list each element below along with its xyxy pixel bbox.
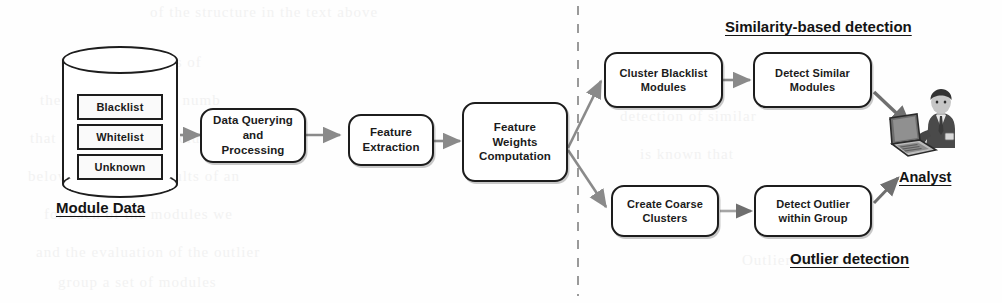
similarity-branch-caption: Similarity-based detection: [725, 18, 912, 35]
data-slot-unknown[interactable]: Unknown: [77, 154, 163, 180]
box-line: Create Coarse: [623, 197, 707, 211]
box-line: Feature: [475, 120, 555, 135]
box-line: Detect Similar: [771, 66, 854, 80]
arrow-feature-weights-to-cluster-blacklist: [568, 81, 601, 148]
process-box-detect-outlier-within-group[interactable]: Detect Outlier within Group: [754, 185, 872, 237]
box-line: and Processing: [206, 128, 300, 158]
box-line: Modules: [616, 80, 712, 94]
diagram-canvas: of the structure in the text abovete in …: [0, 0, 1002, 303]
box-line: Weights: [475, 135, 555, 150]
box-line: Feature: [358, 125, 423, 140]
process-box-create-coarse-clusters[interactable]: Create Coarse Clusters: [611, 185, 719, 237]
box-line: Cluster Blacklist: [616, 66, 712, 80]
box-line: Data Querying: [206, 113, 300, 128]
outlier-branch-caption: Outlier detection: [790, 250, 909, 267]
box-line: Extraction: [358, 140, 423, 155]
data-slot-whitelist[interactable]: Whitelist: [77, 124, 163, 150]
module-data-store: Blacklist Whitelist Unknown: [62, 46, 178, 198]
data-slot-label: Unknown: [95, 161, 146, 173]
cylinder-top-ellipse: [62, 46, 178, 74]
process-box-cluster-blacklist-modules[interactable]: Cluster Blacklist Modules: [604, 52, 723, 108]
process-box-feature-extraction[interactable]: Feature Extraction: [348, 114, 434, 166]
process-box-data-querying[interactable]: Data Querying and Processing: [200, 108, 306, 163]
arrow-feature-weights-to-create-coarse-clusters: [568, 150, 606, 207]
module-data-caption: Module Data: [56, 199, 145, 216]
data-slot-label: Blacklist: [96, 101, 143, 113]
box-line: Modules: [771, 80, 854, 94]
arrow-detect-outlier-to-analyst: [874, 178, 898, 203]
analyst-label: Analyst: [899, 169, 951, 185]
process-box-feature-weights-computation[interactable]: Feature Weights Computation: [462, 102, 568, 182]
data-slot-label: Whitelist: [96, 131, 144, 143]
box-line: Clusters: [623, 211, 707, 225]
box-line: Computation: [475, 149, 555, 164]
process-box-detect-similar-modules[interactable]: Detect Similar Modules: [753, 52, 872, 108]
box-line: Detect Outlier: [772, 197, 854, 211]
data-slot-blacklist[interactable]: Blacklist: [77, 94, 163, 120]
box-line: within Group: [772, 211, 854, 225]
analyst-with-laptop-icon: [884, 88, 970, 168]
